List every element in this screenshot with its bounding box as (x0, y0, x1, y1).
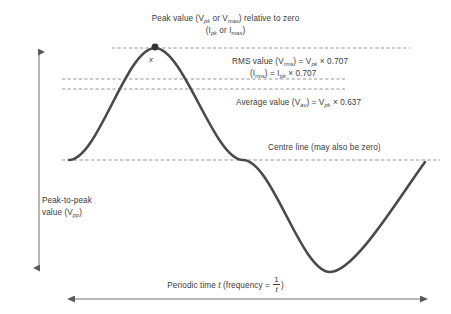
rms-subscript-pk: pk (311, 61, 317, 67)
rms-value-annotation: RMS value (Vrms) = Vpk × 0.707 (Irms) = … (232, 56, 348, 80)
average-text-open: Average value (V (236, 98, 300, 107)
rms-subscript-rms: rms (284, 61, 294, 67)
rms-current-text-mid: ) = I (265, 69, 280, 78)
average-text-tail: × 0.637 (331, 98, 362, 107)
periodic-text-open: Periodic time (167, 281, 218, 290)
rms-text-open: RMS value (V (232, 57, 284, 66)
peak-value-text-open: Peak value (V (152, 14, 204, 23)
peak-current-text-close: ) (242, 26, 245, 35)
frequency-denominator: t (273, 284, 280, 294)
average-subscript-av: av (300, 102, 306, 108)
peak-current-subscript-max: max (232, 30, 243, 36)
peak-value-text-tail: ) relative to zero (239, 14, 300, 23)
peak-to-peak-line2-close: ) (79, 208, 82, 217)
rms-text-tail: × 0.707 (317, 57, 348, 66)
peak-value-subscript-pk: pk (204, 18, 210, 24)
average-value-annotation: Average value (Vav) = Vpk × 0.637 (236, 97, 361, 109)
frequency-fraction: 1t (273, 276, 280, 294)
waveform-diagram: Peak value (Vpk or Vmax) relative to zer… (0, 0, 451, 314)
rms-current-subscript-rms: rms (255, 73, 265, 79)
peak-current-text-mid: or I (217, 26, 232, 35)
diagram-canvas (0, 0, 451, 314)
rms-current-subscript-pk: pk (280, 73, 286, 79)
frequency-numerator: 1 (273, 276, 280, 284)
peak-value-subscript-max: max (228, 18, 239, 24)
peak-to-peak-line2-open: value (V (42, 208, 73, 217)
rms-current-text-tail: × 0.707 (286, 69, 317, 78)
average-subscript-pk: pk (324, 102, 330, 108)
peak-value-text-mid: or V (210, 14, 228, 23)
periodic-text-mid: (frequency = (221, 281, 273, 290)
centre-line-annotation: Centre line (may also be zero) (268, 142, 381, 153)
peak-to-peak-annotation: Peak-to-peak value (Vpp) (42, 195, 132, 219)
rms-text-mid: ) = V (293, 57, 311, 66)
average-text-mid: ) = V (306, 98, 324, 107)
peak-marker-label: x (149, 55, 153, 64)
peak-to-peak-line1: Peak-to-peak (42, 196, 92, 205)
peak-to-peak-subscript-pp: pp (73, 212, 79, 218)
peak-point-marker-dot (152, 44, 159, 51)
peak-value-annotation: Peak value (Vpk or Vmax) relative to zer… (0, 13, 451, 37)
periodic-text-close: ) (281, 281, 284, 290)
periodic-time-annotation: Periodic time t (frequency = 1t) (0, 277, 451, 295)
peak-current-subscript-pk: pk (211, 30, 217, 36)
